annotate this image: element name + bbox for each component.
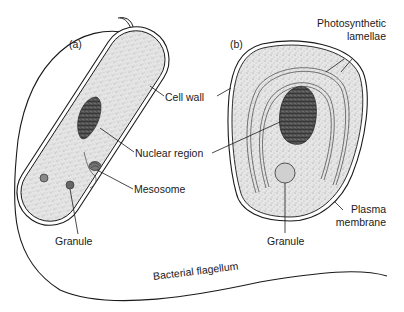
plasma-membrane-label-line2: membrane <box>330 216 386 228</box>
cell-a-granule-1 <box>40 174 48 182</box>
nuclear-region-label: Nuclear region <box>135 147 203 159</box>
granule-b-label: Granule <box>267 235 304 247</box>
plasma-membrane-label-line1: Plasma <box>330 203 386 215</box>
photosynthetic-label-line2: lamellae <box>308 30 386 42</box>
panel-b-label: (b) <box>230 38 243 50</box>
granule-a-label: Granule <box>55 235 92 247</box>
cell-b-granule <box>275 163 295 183</box>
cell-a-granule-2 <box>66 181 74 189</box>
panel-a-label: (a) <box>69 38 82 50</box>
photosynthetic-label-line1: Photosynthetic <box>308 17 386 29</box>
leader-mesosome <box>97 170 133 189</box>
cell-wall-label: Cell wall <box>165 91 204 103</box>
mesosome-label: Mesosome <box>134 183 185 195</box>
